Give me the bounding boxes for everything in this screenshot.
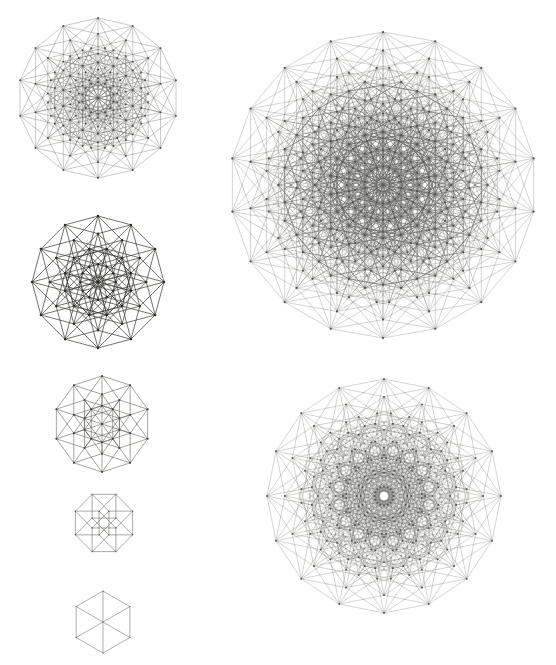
projection-canvas	[0, 0, 556, 665]
hypercube-projections-figure	[0, 0, 556, 665]
projection-cube-7	[19, 17, 177, 179]
projection-cube-3	[76, 590, 131, 653]
edges	[267, 379, 501, 613]
edges	[75, 494, 132, 551]
projection-cube-6	[31, 215, 165, 349]
projection-cube-4	[75, 494, 134, 553]
projection-cube-5	[55, 375, 148, 473]
vertices	[266, 378, 502, 614]
projection-cube-8	[266, 378, 502, 614]
vertices	[75, 494, 134, 553]
projection-cube-9	[231, 31, 535, 339]
